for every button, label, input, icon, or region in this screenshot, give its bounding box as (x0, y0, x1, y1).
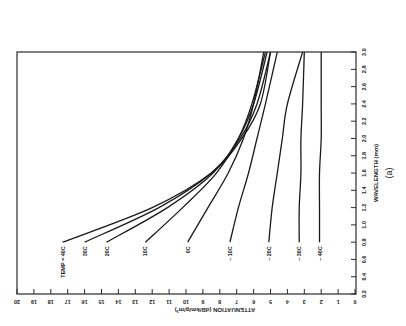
tick-label: 3 (303, 299, 306, 305)
curve--10c (230, 52, 277, 242)
curve--30c (299, 52, 304, 242)
tick-label: 4 (285, 299, 289, 305)
tick-label: 13 (132, 299, 138, 305)
tick-label: 1.4 (361, 186, 367, 195)
curve-label: TEMP = 40C (60, 246, 66, 278)
curve-label: 30C (82, 246, 88, 256)
tick-label: 1.0 (361, 221, 367, 229)
curve-label: 10C (142, 246, 148, 256)
plot-frame (17, 52, 356, 294)
tick-label: 7 (235, 299, 238, 305)
curve-20c (107, 52, 268, 242)
curve-temp40c (63, 52, 271, 242)
figure-subtitle: (a) (384, 167, 394, 178)
curve--40c (319, 52, 321, 242)
curve--20c (269, 52, 303, 242)
tick-label: 6 (252, 299, 255, 305)
wavelength-axis-label: WAVELENGTH (mm) (373, 144, 379, 202)
curve-0c (188, 52, 264, 242)
tick-label: 1.8 (361, 152, 367, 160)
tick-label: 1.6 (361, 169, 367, 177)
tick-label: 11 (166, 299, 172, 305)
tick-label: 0.4 (361, 272, 367, 281)
tick-label: 2.2 (361, 117, 367, 125)
wavelength-axis-ticks: 0.20.40.60.81.01.21.41.61.82.02.22.42.62… (351, 48, 367, 298)
curve-label: – 20C (266, 246, 272, 261)
curve-label: – 30C (296, 246, 302, 261)
tick-label: 8 (218, 299, 221, 305)
curve-label: – 10C (227, 246, 233, 261)
tick-label: 16 (82, 299, 88, 305)
tick-label: 1.2 (361, 204, 367, 212)
curve-labels: TEMP = 40C30C20C10C0C– 10C– 20C– 30C– 40… (60, 246, 323, 278)
curve-10c (145, 52, 265, 242)
attenuation-axis-ticks: 01234567891011121314151617181920 (14, 289, 357, 305)
tick-label: 2.8 (361, 66, 367, 74)
tick-label: 2.6 (361, 83, 367, 91)
tick-label: 2.0 (361, 135, 367, 143)
tick-label: 14 (114, 299, 121, 305)
curve-label: 20C (104, 246, 110, 256)
tick-label: 0.2 (361, 290, 367, 298)
temperature-curves (63, 52, 322, 242)
tick-label: 9 (201, 299, 204, 305)
tick-label: 2.4 (361, 99, 367, 108)
tick-label: 19 (31, 299, 37, 305)
tick-label: 3.0 (361, 48, 367, 56)
tick-label: 18 (48, 299, 54, 305)
tick-label: 17 (65, 299, 71, 305)
tick-label: 1 (337, 299, 340, 305)
tick-label: 20 (14, 299, 20, 305)
tick-label: 5 (269, 299, 272, 305)
tick-label: 10 (183, 299, 189, 305)
curve-30c (85, 52, 271, 242)
attenuation-axis-label: ATTENUATION (dB/km/g/m³) (175, 307, 255, 313)
tick-label: 0.8 (361, 238, 367, 246)
tick-label: 0.6 (361, 256, 367, 264)
attenuation-chart: 01234567891011121314151617181920 0.20.40… (0, 0, 406, 326)
tick-label: 12 (149, 299, 155, 305)
tick-label: 0 (353, 299, 356, 305)
curve-label: – 40C (317, 246, 323, 261)
tick-label: 15 (98, 299, 104, 305)
curve-label: 0C (185, 246, 191, 253)
tick-label: 2 (320, 299, 323, 305)
